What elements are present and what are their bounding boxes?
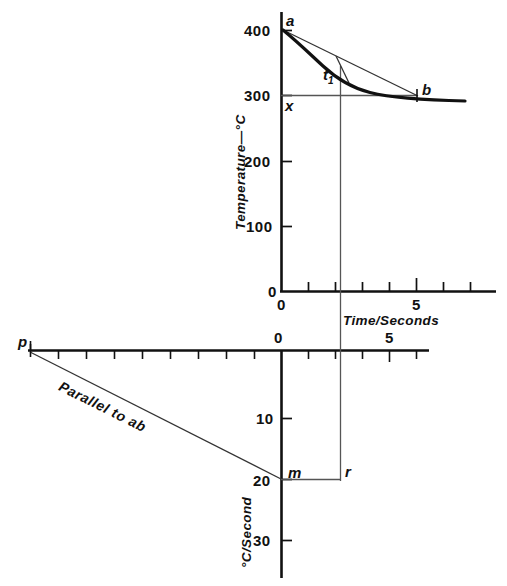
- point-label-r: r: [345, 464, 351, 479]
- lower-chart-group: [28, 330, 429, 578]
- upper-chart-group: [280, 12, 496, 330]
- lower-x-tick-label-5: 5: [385, 330, 394, 345]
- point-label-a: a: [286, 13, 294, 28]
- lower-y-tick-label-20: 20: [253, 473, 271, 488]
- upper-x-tick-label-0: 0: [277, 297, 286, 312]
- upper-y-tick-label-300: 300: [244, 88, 271, 103]
- cooling-curve-path: [283, 30, 465, 101]
- lower-x-ticks-right: [309, 351, 417, 363]
- point-label-t1: t1: [323, 67, 334, 86]
- point-label-m: m: [288, 465, 301, 480]
- point-label-t1-subscript: 1: [328, 75, 334, 86]
- upper-x-tick-label-5: 5: [412, 297, 421, 312]
- upper-y-ticks: [282, 31, 293, 227]
- upper-x-ticks: [309, 278, 471, 292]
- upper-y-tick-label-400: 400: [244, 23, 271, 38]
- lower-y-axis-title: °C/Second: [240, 497, 254, 568]
- cooling-curve-figure: 400 300 200 100 0 0 5 Time/Seconds Tempe…: [0, 0, 507, 586]
- upper-y-tick-label-100: 100: [246, 219, 273, 234]
- upper-y-axis-title: Temperature—°C: [234, 114, 248, 230]
- lower-y-tick-label-30: 30: [253, 533, 271, 548]
- line-p-to-m: [30, 352, 282, 480]
- point-label-x: x: [285, 98, 293, 113]
- point-label-p: p: [18, 334, 27, 349]
- lower-y-tick-label-10: 10: [256, 411, 274, 426]
- upper-x-axis-title: Time/Seconds: [343, 314, 439, 328]
- point-label-b: b: [422, 82, 431, 97]
- upper-y-tick-label-0: 0: [268, 284, 277, 299]
- lower-x-tick-label-0: 0: [274, 330, 283, 345]
